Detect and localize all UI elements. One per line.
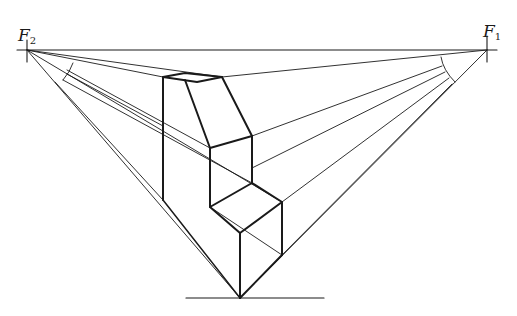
object-outline — [163, 73, 282, 298]
construction-lines-f1 — [222, 50, 487, 298]
perspective-drawing — [0, 0, 517, 316]
construction-lines-f2 — [27, 50, 282, 298]
